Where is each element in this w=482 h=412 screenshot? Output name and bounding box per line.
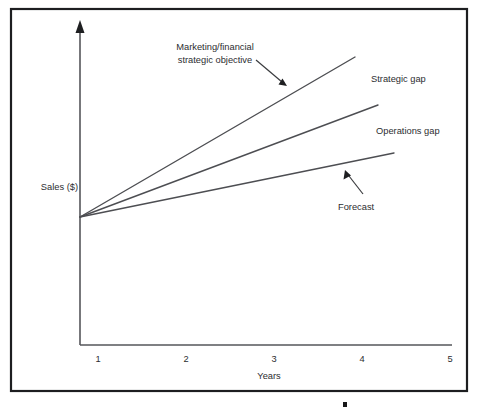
annotation-strategic-gap: Strategic gap <box>371 74 426 84</box>
x-tick-label-2: 2 <box>183 354 188 364</box>
x-tick-label-3: 3 <box>271 354 276 364</box>
series-line-strategic-objective <box>80 57 355 217</box>
annotation-strategic-objective-line1: Marketing/financial <box>176 42 254 52</box>
x-tick-label-4: 4 <box>359 354 364 364</box>
sales-gap-chart: Sales ($) Years 1 2 3 4 5 Marketing/fina… <box>0 0 482 412</box>
series-line-operations <box>80 105 378 217</box>
x-tick-label-5: 5 <box>447 354 452 364</box>
x-axis-title: Years <box>257 371 281 381</box>
y-axis-title: Sales ($) <box>41 182 78 192</box>
x-tick-label-1: 1 <box>95 354 100 364</box>
figure-root: Sales ($) Years 1 2 3 4 5 Marketing/fina… <box>0 0 482 412</box>
objective-leader-line <box>256 60 282 82</box>
forecast-leader-line <box>349 176 363 194</box>
annotation-operations-gap: Operations gap <box>376 126 440 136</box>
annotation-forecast: Forecast <box>338 202 375 212</box>
registration-dot <box>343 402 347 407</box>
annotation-strategic-objective-line2: strategic objective <box>178 55 252 65</box>
y-axis-arrow-icon <box>76 20 85 33</box>
